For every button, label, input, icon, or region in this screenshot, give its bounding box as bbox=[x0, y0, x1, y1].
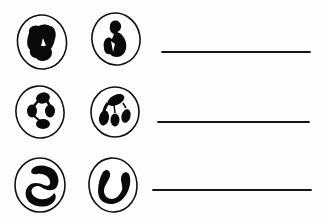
cell-3a bbox=[15, 158, 65, 212]
cell-membrane bbox=[87, 156, 140, 214]
neutrophil-diagram bbox=[0, 0, 328, 224]
cell-membrane bbox=[12, 82, 68, 142]
cell-1b bbox=[87, 9, 145, 70]
row-1 bbox=[14, 9, 310, 73]
cell-2a bbox=[12, 82, 68, 142]
row-3 bbox=[15, 156, 311, 214]
cell-3b bbox=[87, 156, 140, 214]
diagram-svg bbox=[0, 0, 328, 224]
cell-2b bbox=[91, 87, 139, 137]
cell-1a bbox=[14, 12, 70, 72]
row-2 bbox=[12, 82, 309, 142]
